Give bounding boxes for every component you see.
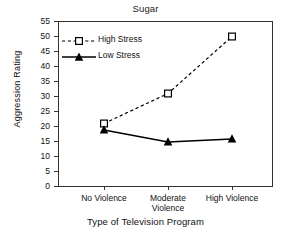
y-tick-label: 40 <box>28 62 50 71</box>
legend-swatch-high-stress <box>62 36 96 46</box>
y-tick-label: 50 <box>28 32 50 41</box>
y-tick-label: 55 <box>28 17 50 26</box>
y-tick-label: 25 <box>28 107 50 116</box>
legend-entry-high-stress: High Stress <box>62 36 96 48</box>
y-tick-label: 20 <box>28 122 50 131</box>
y-tick-label: 15 <box>28 137 50 146</box>
y-tick-label: 10 <box>28 152 50 161</box>
y-tick-label: 45 <box>28 47 50 56</box>
series-high-stress-marker <box>165 90 172 97</box>
y-tick-label: 5 <box>28 167 50 176</box>
y-tick-label: 35 <box>28 77 50 86</box>
series-high-stress-marker <box>229 33 236 40</box>
chart-title: Sugar <box>0 3 291 14</box>
series-high-stress <box>101 33 236 127</box>
y-tick-label: 0 <box>28 182 50 191</box>
x-axis-label: Type of Television Program <box>0 216 291 227</box>
legend-entry-low-stress: Low Stress <box>62 52 96 64</box>
legend-swatch-low-stress <box>62 52 96 62</box>
legend-label-low-stress: Low Stress <box>98 51 140 60</box>
legend-label-high-stress: High Stress <box>98 35 142 44</box>
y-axis-label: Aggression Rating <box>12 34 22 144</box>
series-low-stress <box>100 125 237 145</box>
y-tick-label: 30 <box>28 92 50 101</box>
chart-container: Sugar 55 50 45 40 35 30 25 20 15 10 5 0 … <box>0 0 291 238</box>
x-tick-label-line2: Violence <box>128 203 208 213</box>
x-tick-label-high-violence: High Violence <box>192 193 272 203</box>
